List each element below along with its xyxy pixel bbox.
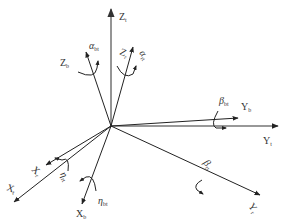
label-xt: Xt <box>5 182 18 196</box>
label-beta-bt: βbt <box>218 95 229 107</box>
label-xr: Xr <box>29 164 44 179</box>
label-eta-bt: ηbt <box>98 195 108 207</box>
label-zt: Zt <box>119 11 127 23</box>
label-xb: Xb <box>76 208 86 220</box>
rotation-arc-beta-rt <box>196 180 203 194</box>
rotation-arc-alpha-bt <box>78 61 98 75</box>
axis-yb <box>111 118 238 126</box>
label-alpha-bt: αbt <box>89 40 99 52</box>
coordinate-frames-diagram: Zt Zb Zr Yt Yb Yr Xt Xr Xb αbt αrt βbt β… <box>0 0 287 222</box>
axis-yr <box>111 126 260 195</box>
axis-xr <box>46 126 111 165</box>
axis-zr <box>111 47 133 126</box>
label-beta-rt: βrt <box>200 156 216 171</box>
label-yt: Yt <box>263 135 272 147</box>
label-yb: Yb <box>241 101 251 113</box>
label-yr: Yr <box>246 201 261 215</box>
label-zr: Zr <box>118 46 130 60</box>
label-alpha-rt: αrt <box>137 48 152 62</box>
label-zb: Zb <box>60 57 69 69</box>
label-eta-rt: ηrt <box>57 170 72 184</box>
axis-zb <box>86 52 111 126</box>
